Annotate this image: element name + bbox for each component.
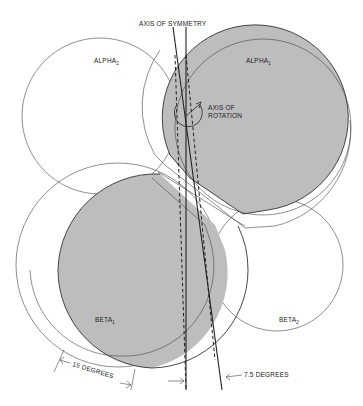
beta2-label: BETA2 [279, 316, 299, 325]
axis-of-symmetry-label: AXIS OF SYMMETRY [139, 20, 207, 27]
alpha2-label: ALPHA2 [94, 57, 119, 66]
dimension-tick-right [131, 369, 135, 390]
beta1-shape [58, 174, 228, 368]
fifteen-degrees-label: 15 DEGREES [72, 360, 115, 379]
arrow-to-axis-icon [168, 378, 184, 384]
axis-of-rotation-label-1: AXIS OF [208, 104, 235, 111]
arrow-left-icon [60, 357, 70, 364]
seven-point-five-degrees-label: 7.5 DEGREES [244, 371, 289, 378]
arrow-right-icon [120, 381, 131, 388]
subunit-rotation-diagram: AXIS OF SYMMETRY AXIS OF ROTATION ALPHA2… [0, 0, 363, 406]
alpha1-shape [162, 25, 348, 214]
beta2-circle [211, 199, 343, 331]
axis-of-rotation-label-2: ROTATION [208, 112, 242, 119]
arrow-to-tilted-axis-icon [226, 374, 242, 380]
